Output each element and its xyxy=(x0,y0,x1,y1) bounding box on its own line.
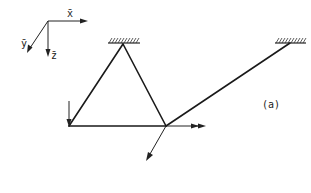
arrow-right-icon xyxy=(191,124,199,129)
support-left xyxy=(108,38,140,43)
x-axis-label: x̄ xyxy=(67,8,73,19)
load-diagonal-line xyxy=(150,126,166,154)
member-diagonal-to-right-support xyxy=(166,43,290,126)
x-axis-arrowhead-icon xyxy=(80,19,88,24)
z-axis-arrowhead-icon xyxy=(46,49,51,57)
support-right-hatch-icon xyxy=(276,38,306,43)
coordinate-system: x̄ z̄ ȳ xyxy=(21,8,88,61)
z-axis-label: z̄ xyxy=(51,50,57,61)
figure-caption: (a) xyxy=(262,99,280,110)
double-arrow-right-icon xyxy=(198,124,206,129)
support-left-hatch-icon xyxy=(109,38,139,43)
load-horizontal xyxy=(166,124,206,129)
support-right xyxy=(275,38,306,43)
frame-members xyxy=(69,43,290,126)
member-apex-bottom-right xyxy=(123,44,166,126)
structural-diagram: x̄ z̄ ȳ xyxy=(0,0,311,193)
y-axis-line xyxy=(30,21,48,48)
arrow-down-left-icon xyxy=(146,152,153,161)
load-diagonal xyxy=(146,126,166,161)
y-axis-label: ȳ xyxy=(21,38,27,49)
member-apex-bottom-left xyxy=(69,44,123,126)
